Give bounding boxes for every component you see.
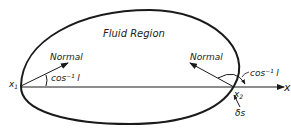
left-point-label: x1 (8, 79, 18, 90)
left-angle-arc (46, 75, 47, 86)
x-axis-label: x (283, 81, 291, 94)
left-normal-label: Normal (50, 52, 83, 62)
right-point-label: x2 (233, 89, 243, 100)
fluid-boundary-diagram: Fluid Region Normal cos⁻¹ l x1 Normal co… (0, 0, 291, 128)
right-normal-arrow (190, 63, 234, 87)
left-angle-label: cos⁻¹ l (51, 73, 80, 83)
right-angle-leader (242, 72, 249, 77)
right-angle-arc (218, 74, 245, 84)
right-normal-label: Normal (190, 52, 223, 62)
right-angle-label: cos⁻¹ l (250, 68, 279, 78)
region-label: Fluid Region (103, 28, 165, 39)
delta-s-label: δs (235, 108, 246, 118)
